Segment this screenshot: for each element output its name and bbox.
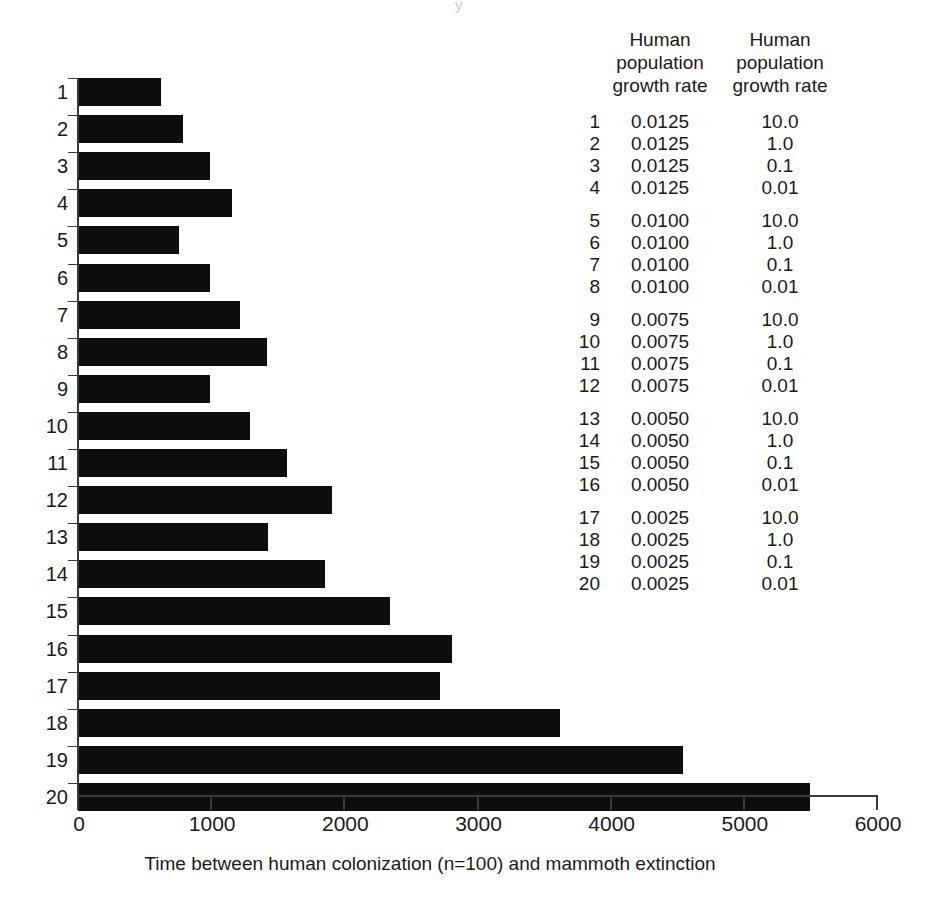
y-axis-label: 20 — [6, 787, 68, 807]
x-axis-tick — [343, 797, 345, 810]
bar — [78, 486, 332, 514]
cell-index: 15 — [560, 452, 600, 474]
y-axis-tick — [68, 746, 78, 747]
y-axis-tick — [68, 672, 78, 673]
bar — [78, 115, 183, 143]
cell-growth-rate: 0.0025 — [600, 529, 720, 551]
cell-index: 2 — [560, 133, 600, 155]
cell-growth-rate-2: 0.1 — [720, 155, 840, 177]
y-axis-tick — [68, 78, 78, 79]
y-axis-tick — [68, 635, 78, 636]
cell-growth-rate: 0.0025 — [600, 507, 720, 529]
table-row: 60.01001.0 — [560, 232, 880, 254]
cell-growth-rate: 0.0125 — [600, 133, 720, 155]
table-row: 130.005010.0 — [560, 408, 880, 430]
cell-index: 4 — [560, 177, 600, 199]
bar — [78, 264, 210, 292]
table-row: 160.00500.01 — [560, 474, 880, 496]
cell-index: 18 — [560, 529, 600, 551]
cell-growth-rate: 0.0075 — [600, 331, 720, 353]
x-axis-tick — [477, 797, 479, 810]
table-row: 100.00751.0 — [560, 331, 880, 353]
y-axis-label: 4 — [6, 193, 68, 213]
y-axis-tick — [68, 338, 78, 339]
cell-growth-rate: 0.0125 — [600, 111, 720, 133]
y-axis-label: 7 — [6, 305, 68, 325]
cell-growth-rate-2: 1.0 — [720, 331, 840, 353]
x-axis-tick — [210, 797, 212, 810]
x-axis-tick-label: 4000 — [567, 812, 657, 836]
x-axis-tick — [743, 797, 745, 810]
bar — [78, 523, 268, 551]
y-axis-tick — [68, 152, 78, 153]
cell-growth-rate: 0.0025 — [600, 573, 720, 595]
bar-row — [78, 635, 877, 663]
table-row: 50.010010.0 — [560, 210, 880, 232]
cell-growth-rate: 0.0025 — [600, 551, 720, 573]
cell-index: 1 — [560, 111, 600, 133]
cell-growth-rate-2: 1.0 — [720, 133, 840, 155]
bar — [78, 746, 683, 774]
bar — [78, 709, 560, 737]
y-axis-tick — [68, 301, 78, 302]
cell-growth-rate-2: 1.0 — [720, 430, 840, 452]
y-axis-tick — [68, 449, 78, 450]
table-row: 80.01000.01 — [560, 276, 880, 298]
cell-index: 17 — [560, 507, 600, 529]
cell-index: 11 — [560, 353, 600, 375]
y-axis-label: 5 — [6, 230, 68, 250]
y-axis-label: 14 — [6, 564, 68, 584]
cell-growth-rate: 0.0075 — [600, 353, 720, 375]
y-axis-label: 13 — [6, 527, 68, 547]
x-axis-tick-label: 2000 — [300, 812, 390, 836]
cell-growth-rate: 0.0125 — [600, 177, 720, 199]
bar — [78, 226, 179, 254]
cell-index: 5 — [560, 210, 600, 232]
table-row: 150.00500.1 — [560, 452, 880, 474]
cell-growth-rate: 0.0050 — [600, 452, 720, 474]
header-line: growth rate — [720, 74, 840, 97]
cell-growth-rate-2: 10.0 — [720, 309, 840, 331]
y-axis-tick — [68, 115, 78, 116]
cell-growth-rate-2: 0.1 — [720, 254, 840, 276]
x-axis-tick — [610, 797, 612, 810]
cell-growth-rate-2: 0.1 — [720, 353, 840, 375]
cell-growth-rate: 0.0100 — [600, 210, 720, 232]
x-axis-tick — [876, 797, 878, 810]
y-axis-tick — [68, 560, 78, 561]
cell-growth-rate-2: 1.0 — [720, 529, 840, 551]
y-axis-label: 2 — [6, 119, 68, 139]
cell-index: 8 — [560, 276, 600, 298]
cell-index: 9 — [560, 309, 600, 331]
table-row: 180.00251.0 — [560, 529, 880, 551]
y-axis-label: 9 — [6, 379, 68, 399]
bar — [78, 449, 287, 477]
bar — [78, 152, 210, 180]
bar — [78, 338, 267, 366]
bar-row — [78, 672, 877, 700]
cell-growth-rate-2: 0.01 — [720, 573, 840, 595]
table-row: 70.01000.1 — [560, 254, 880, 276]
cell-growth-rate-2: 0.01 — [720, 375, 840, 397]
x-axis-tick-label: 0 — [34, 812, 124, 836]
table-row: 190.00250.1 — [560, 551, 880, 573]
bar — [78, 412, 250, 440]
cell-growth-rate-2: 1.0 — [720, 232, 840, 254]
cell-index: 19 — [560, 551, 600, 573]
y-axis-tick — [68, 783, 78, 784]
table-row: 140.00501.0 — [560, 430, 880, 452]
x-axis-tick-label: 5000 — [700, 812, 790, 836]
cell-index: 10 — [560, 331, 600, 353]
bar — [78, 672, 440, 700]
table-row: 120.00750.01 — [560, 375, 880, 397]
table-row: 200.00250.01 — [560, 573, 880, 595]
table-row: 10.012510.0 — [560, 111, 880, 133]
cell-index: 14 — [560, 430, 600, 452]
y-axis-label: 17 — [6, 676, 68, 696]
table-row: 20.01251.0 — [560, 133, 880, 155]
y-axis-tick — [68, 412, 78, 413]
bar-chart-figure: y 1234567891011121314151617181920 010002… — [0, 0, 933, 900]
cell-growth-rate: 0.0100 — [600, 254, 720, 276]
cell-growth-rate: 0.0100 — [600, 232, 720, 254]
cell-growth-rate: 0.0075 — [600, 309, 720, 331]
